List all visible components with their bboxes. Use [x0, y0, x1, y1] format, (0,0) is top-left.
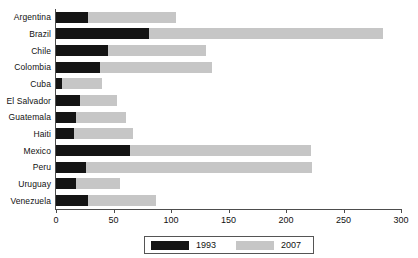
bar-1993: [56, 28, 149, 39]
category-label: Cuba: [30, 79, 51, 89]
bar-1993: [56, 12, 88, 23]
x-tick: [401, 209, 402, 213]
x-tick-label: 200: [278, 215, 293, 225]
bar-2007: [56, 162, 312, 173]
category-label: Colombia: [14, 62, 51, 72]
x-tick: [229, 209, 230, 213]
category-label: Brazil: [29, 29, 51, 39]
category-label: Venezuela: [10, 196, 51, 206]
bar-group: Chile: [56, 42, 412, 59]
bar-1993: [56, 95, 80, 106]
x-tick: [344, 209, 345, 213]
bar-group: Guatemala: [56, 109, 412, 126]
category-label: Haiti: [33, 129, 51, 139]
bar-1993: [56, 45, 108, 56]
x-tick-label: 0: [53, 215, 58, 225]
x-tick: [114, 209, 115, 213]
chart-legend: 1993 2007: [144, 236, 314, 254]
x-tick: [171, 209, 172, 213]
bar-chart: ArgentinaBrazilChileColombiaCubaEl Salva…: [0, 0, 418, 258]
bar-group: Argentina: [56, 9, 412, 26]
bar-1993: [56, 62, 100, 73]
bar-group: Mexico: [56, 142, 412, 159]
bar-1993: [56, 112, 76, 123]
x-tick: [286, 209, 287, 213]
bar-group: Colombia: [56, 59, 412, 76]
bar-group: Haiti: [56, 126, 412, 143]
legend-entry-1993: 1993: [151, 237, 216, 253]
bar-1993: [56, 178, 76, 189]
bar-1993: [56, 145, 130, 156]
x-tick: [56, 209, 57, 213]
bar-group: Venezuela: [56, 192, 412, 209]
legend-swatch-2007: [236, 241, 274, 250]
bar-2007: [56, 78, 102, 89]
bar-group: Uruguay: [56, 176, 412, 193]
legend-swatch-1993: [151, 241, 189, 250]
category-label: Argentina: [14, 12, 51, 22]
category-label: Chile: [31, 46, 51, 56]
bar-group: El Salvador: [56, 92, 412, 109]
bar-1993: [56, 195, 88, 206]
x-tick-label: 250: [336, 215, 351, 225]
legend-label-2007: 2007: [281, 240, 301, 250]
category-label: El Salvador: [6, 96, 51, 106]
legend-entry-2007: 2007: [236, 237, 301, 253]
bar-group: Brazil: [56, 26, 412, 43]
bar-1993: [56, 162, 86, 173]
category-label: Guatemala: [9, 112, 51, 122]
x-tick-label: 150: [221, 215, 236, 225]
category-label: Uruguay: [18, 179, 51, 189]
x-tick-label: 100: [163, 215, 178, 225]
category-label: Mexico: [23, 146, 51, 156]
category-label: Peru: [33, 162, 51, 172]
plot-area: ArgentinaBrazilChileColombiaCubaEl Salva…: [56, 9, 412, 209]
bar-1993: [56, 78, 62, 89]
bar-group: Peru: [56, 159, 412, 176]
x-tick-label: 300: [393, 215, 408, 225]
bar-1993: [56, 128, 74, 139]
legend-label-1993: 1993: [196, 240, 216, 250]
bar-group: Cuba: [56, 76, 412, 93]
x-tick-label: 50: [108, 215, 118, 225]
